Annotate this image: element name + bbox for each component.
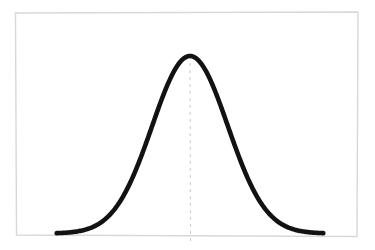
bell-curve-figure <box>0 0 375 250</box>
figure-background <box>0 0 375 250</box>
plot-canvas <box>0 0 375 250</box>
